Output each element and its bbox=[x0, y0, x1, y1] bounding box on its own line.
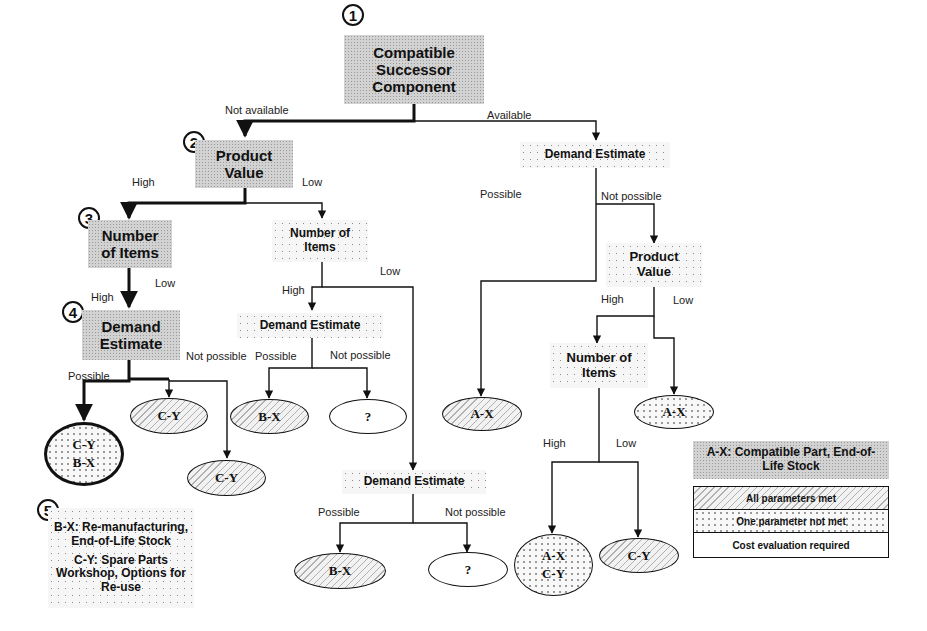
legend-all-parameters-met: All parameters met bbox=[694, 487, 888, 510]
outcome-ax-right: A-X bbox=[634, 395, 714, 429]
edge-label-right-ni-low: Low bbox=[616, 437, 636, 449]
node-right-demand-estimate: Demand Estimate bbox=[520, 142, 670, 168]
edge-label-de4-not-possible: Not possible bbox=[186, 350, 247, 362]
outcome-text: B-X bbox=[72, 454, 95, 472]
edge-label-pv-high: High bbox=[132, 176, 155, 188]
node-right-number-of-items: Number of Items bbox=[550, 343, 648, 388]
legend-one-parameter-not-met: One parameter not met bbox=[694, 510, 888, 533]
note-outcome-definitions: B-X: Re-manufacturing, End-of-Life Stock… bbox=[48, 508, 194, 608]
outcome-ax-left: A-X bbox=[442, 397, 522, 431]
node-product-value: Product Value bbox=[195, 140, 293, 188]
edge-label-low-de-possible: Possible bbox=[318, 506, 360, 518]
outcome-question-low: ? bbox=[428, 552, 508, 587]
node-low-demand-estimate: Demand Estimate bbox=[342, 470, 486, 494]
node-mid-demand-estimate: Demand Estimate bbox=[237, 313, 383, 338]
edge-label-right-pv-high: High bbox=[601, 293, 624, 305]
edge-label-low-de-not-possible: Not possible bbox=[445, 506, 506, 518]
edge-label-mid-ni-high: High bbox=[282, 284, 305, 296]
node-compatible-successor-component: Compatible Successor Component bbox=[344, 35, 484, 104]
note-ax-definition: A-X: Compatible Part, End-of-Life Stock bbox=[693, 441, 889, 479]
outcome-cy-bx: C-YB-X bbox=[44, 422, 124, 486]
outcome-text: A-X bbox=[542, 547, 565, 565]
outcome-bx-mid: B-X bbox=[230, 399, 309, 434]
edge-label-mid-de-not-possible: Not possible bbox=[330, 349, 391, 361]
note-cy: C-Y: Spare Parts Workshop, Options for R… bbox=[54, 554, 188, 595]
legend-cost-evaluation-required: Cost evaluation required bbox=[694, 533, 888, 557]
outcome-text: C-Y bbox=[72, 436, 95, 454]
outcome-cy-low: C-Y bbox=[187, 460, 266, 496]
edge-label-de4-possible: Possible bbox=[68, 370, 110, 382]
edge-label-pv-low: Low bbox=[302, 176, 322, 188]
node-demand-estimate-4: Demand Estimate bbox=[82, 310, 180, 360]
edge-label-available: Available bbox=[487, 109, 531, 121]
edge-label-ni-high: High bbox=[91, 291, 114, 303]
edge-label-ni-low: Low bbox=[155, 277, 175, 289]
outcome-text: C-Y bbox=[542, 565, 565, 583]
edge-label-right-de-possible: Possible bbox=[480, 188, 522, 200]
edge-label-mid-ni-low: Low bbox=[380, 265, 400, 277]
node-number-of-items: Number of Items bbox=[88, 220, 172, 268]
note-bx: B-X: Re-manufacturing, End-of-Life Stock bbox=[54, 521, 188, 549]
edge-label-right-ni-high: High bbox=[543, 437, 566, 449]
step-number-4: 4 bbox=[62, 301, 84, 323]
edge-label-right-pv-low: Low bbox=[673, 294, 693, 306]
node-mid-number-of-items: Number of Items bbox=[272, 220, 368, 262]
outcome-question-mid: ? bbox=[329, 399, 407, 434]
edge-label-mid-de-possible: Possible bbox=[255, 350, 297, 362]
legend: All parameters met One parameter not met… bbox=[693, 486, 889, 558]
outcome-ax-cy: A-XC-Y bbox=[514, 534, 593, 596]
node-right-product-value: Product Value bbox=[606, 243, 702, 287]
outcome-bx-low: B-X bbox=[294, 553, 386, 589]
step-number-1: 1 bbox=[342, 4, 364, 26]
outcome-cy-right: C-Y bbox=[599, 538, 679, 573]
edge-label-not-available: Not available bbox=[225, 104, 289, 116]
outcome-cy-top: C-Y bbox=[130, 398, 208, 434]
edge-label-right-de-not-possible: Not possible bbox=[601, 190, 662, 202]
